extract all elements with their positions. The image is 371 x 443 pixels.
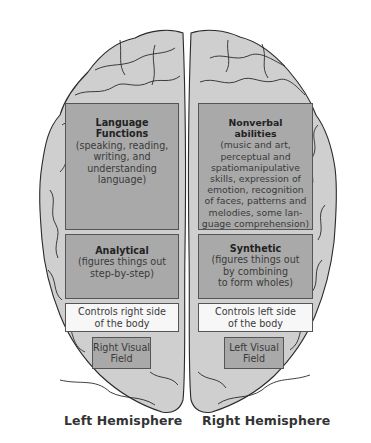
nonverbal-desc-line: skills, expression of [210,173,301,184]
visual-field-line: Field [110,353,132,364]
controls-left-side-box: Controls left side of the body [198,303,313,332]
analytical-title: Analytical [95,245,149,256]
left-visual-field-box: Left Visual Field [224,337,284,369]
right-visual-field-box: Right Visual Field [92,337,151,369]
nonverbal-desc-line: emotion, recognition [207,184,304,195]
nonverbal-desc-line: (music and art, [220,139,291,150]
controls-line: of the body [228,318,283,329]
language-functions-box: Language Functions (speaking, reading, w… [65,103,179,230]
language-title-line1: Language [96,117,149,128]
visual-field-line: Right Visual [93,342,150,353]
controls-line: Controls right side [78,306,166,317]
synthetic-desc-line: to form wholes) [218,277,293,288]
language-desc-line: writing, and [93,151,150,162]
language-desc-line: language) [98,174,146,185]
analytical-box: Analytical (figures things out step-by-s… [65,234,179,299]
nonverbal-title-line2: abilities [235,128,277,139]
controls-right-side-box: Controls right side of the body [65,303,179,332]
left-hemisphere-label: Left Hemisphere [64,413,182,428]
language-title-line2: Functions [96,128,148,139]
nonverbal-title-line1: Nonverbal [229,117,283,128]
visual-field-line: Left Visual [229,342,279,353]
analytical-desc-line: (figures things out [78,256,166,267]
nonverbal-desc-line: perceptual and [220,151,290,162]
controls-line: Controls left side [215,306,296,317]
nonverbal-desc-line: melodies, some lan- [209,207,303,218]
synthetic-desc-line: (figures things out [211,254,299,265]
visual-field-line: Field [243,353,265,364]
nonverbal-desc-line: guage comprehension) [202,218,309,229]
nonverbal-desc-line: of faces, patterns and [205,195,307,206]
synthetic-desc-line: by combining [223,266,288,277]
brain-illustration [0,0,371,443]
language-desc-line: (speaking, reading, [76,140,169,151]
controls-line: of the body [95,318,150,329]
synthetic-box: Synthetic (figures things out by combini… [198,234,313,299]
analytical-desc-line: step-by-step) [90,268,154,279]
nonverbal-desc-line: spatiomanipulative [211,162,300,173]
right-hemisphere-label: Right Hemisphere [202,413,330,428]
synthetic-title: Synthetic [230,243,281,254]
language-desc-line: understanding [87,163,157,174]
nonverbal-abilities-box: Nonverbal abilities (music and art, perc… [198,103,313,230]
